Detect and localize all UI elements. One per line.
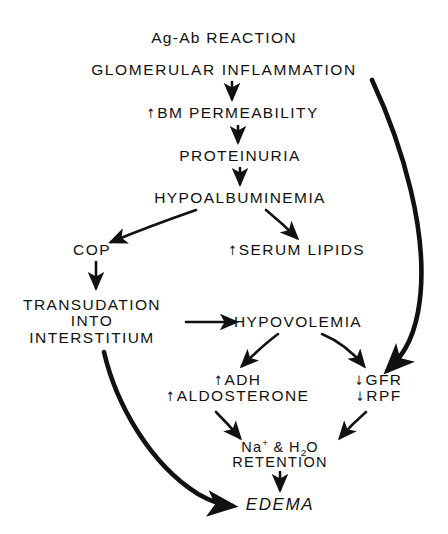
node-label: HYPOALBUMINEMIA	[154, 190, 326, 206]
node-sodium-water-retention: Na+ & H2O RETENTION	[232, 440, 327, 471]
node-hypoalbuminemia: HYPOALBUMINEMIA	[154, 190, 326, 206]
node-label: COP	[73, 242, 111, 258]
node-serum-lipids: ↑SERUM LIPIDS	[227, 242, 365, 258]
node-label-with-arrow: ↑SERUM LIPIDS	[227, 242, 365, 258]
node-adh-aldosterone: ↑ADH ↑ALDOSTERONE	[165, 372, 309, 405]
increase-arrow-icon: ↑	[166, 391, 175, 405]
node-label-with-arrow: ↑BM PERMEABILITY	[145, 105, 318, 121]
node-label: INTERSTITIUM	[23, 330, 161, 346]
node-label-with-arrow: ↑ADH	[165, 372, 309, 388]
node-label: ALDOSTERONE	[177, 387, 310, 404]
node-label: RETENTION	[232, 455, 327, 470]
node-proteinuria: PROTEINURIA	[179, 148, 300, 164]
increase-arrow-icon: ↑	[214, 374, 223, 388]
node-label: INTO	[23, 314, 161, 330]
node-label: GLOMERULAR INFLAMMATION	[91, 62, 357, 78]
increase-arrow-icon: ↑	[228, 244, 237, 258]
decrease-arrow-icon: ↓	[355, 391, 364, 405]
node-label: RPF	[366, 387, 401, 404]
node-label: ADH	[224, 371, 261, 388]
node-gfr-rpf: ↓GFR ↓RPF	[354, 372, 403, 405]
decrease-arrow-icon: ↓	[355, 374, 364, 388]
node-label: GFR	[365, 371, 402, 388]
edge-hypoalbuminemia-to-cop	[111, 210, 196, 242]
edge-hypoalbuminemia-to-serum-lipids	[266, 210, 297, 238]
node-ag-ab-reaction: Ag-Ab REACTION	[151, 30, 297, 46]
node-label-formula: Na+ & H2O	[232, 440, 327, 455]
node-bm-permeability: ↑BM PERMEABILITY	[145, 105, 318, 121]
edge-adh-aldosterone-to-retention	[216, 412, 240, 438]
node-edema: EDEMA	[246, 496, 314, 514]
node-label-with-arrow: ↓GFR	[354, 372, 403, 388]
node-label-with-arrow: ↑ALDOSTERONE	[165, 388, 309, 404]
node-label: Ag-Ab REACTION	[151, 30, 297, 46]
edge-gfr-rpf-to-retention	[340, 412, 366, 438]
node-label-with-arrow: ↓RPF	[354, 388, 403, 404]
node-glomerular-inflammation: GLOMERULAR INFLAMMATION	[91, 62, 357, 78]
node-label: EDEMA	[246, 496, 314, 514]
edge-hypovolemia-to-adh-aldosterone	[242, 334, 278, 366]
node-label: HYPOVOLEMIA	[234, 314, 362, 330]
node-label: BM PERMEABILITY	[157, 104, 318, 121]
node-cop: COP	[73, 242, 111, 258]
node-hypovolemia: HYPOVOLEMIA	[234, 314, 362, 330]
node-label: SERUM LIPIDS	[239, 241, 365, 258]
flowchart-canvas	[0, 0, 448, 534]
edge-hypovolemia-to-gfr-rpf	[322, 334, 364, 366]
node-transudation-into-interstitium: TRANSUDATION INTO INTERSTITIUM	[23, 297, 161, 346]
increase-arrow-icon: ↑	[146, 107, 155, 121]
edge-glomerular-to-gfr-rpf-curve	[372, 80, 421, 370]
node-label: PROTEINURIA	[179, 148, 300, 164]
node-label: TRANSUDATION	[23, 297, 161, 313]
